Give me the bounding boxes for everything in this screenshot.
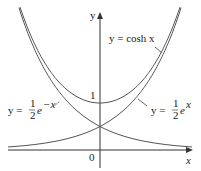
cosh-arrow (155, 47, 162, 53)
exp-pos-label: y = 1 2 e x (151, 97, 191, 121)
svg-text:e: e (37, 104, 42, 116)
exp-pos-curve (8, 8, 181, 147)
svg-text:y =: y = (8, 104, 22, 116)
x-axis-arrow-icon (186, 147, 193, 153)
cosh-label: y = cosh x (109, 32, 155, 44)
svg-text:y =: y = (151, 104, 165, 116)
svg-text:e: e (180, 104, 185, 116)
exp-neg-curve (19, 8, 192, 147)
svg-text:x: x (185, 98, 191, 110)
svg-text:−x: −x (43, 98, 55, 110)
svg-text:2: 2 (173, 109, 179, 121)
svg-text:1: 1 (173, 97, 179, 109)
x-axis-label: x (185, 154, 191, 166)
y-tick-one: 1 (90, 89, 96, 101)
svg-text:1: 1 (30, 97, 36, 109)
y-axis-label: y (90, 9, 96, 21)
cosh-chart: y x 0 1 y = cosh x y = 1 2 e −x y = 1 2 … (0, 0, 201, 171)
exp-pos-arrow (138, 99, 147, 106)
exp-neg-label: y = 1 2 e −x (8, 97, 55, 121)
origin-label: 0 (89, 151, 95, 163)
svg-text:2: 2 (30, 109, 36, 121)
y-axis-arrow-icon (97, 12, 103, 19)
